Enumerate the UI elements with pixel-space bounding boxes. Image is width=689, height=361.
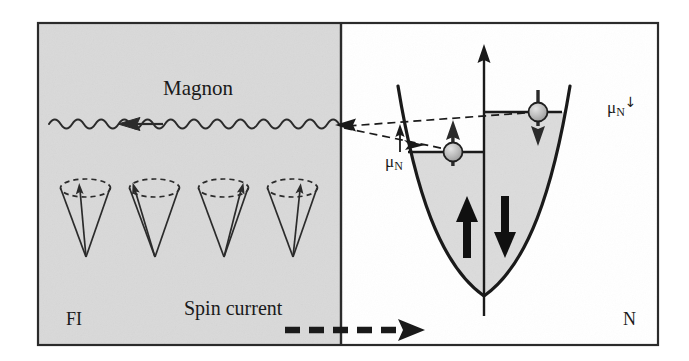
electron-spin-up-sphere <box>444 143 463 162</box>
mu-spin-down-label: μN↓ <box>607 95 637 118</box>
figure-root: Magnon Spin current FI N μN μN↓ <box>0 0 689 361</box>
majority-spin-arrow-shaft <box>463 216 471 258</box>
n-region-label: N <box>623 310 636 328</box>
mu-symbol: μ <box>385 152 394 171</box>
spin-pumping-diagram <box>0 0 689 361</box>
minority-spin-arrow-shaft <box>501 196 509 238</box>
electron-spin-down-sphere <box>529 103 548 122</box>
magnon-label: Magnon <box>163 78 233 99</box>
mu-symbol: μ <box>607 98 616 117</box>
mu-superscript-down-arrow: ↓ <box>625 94 637 110</box>
spin-current-label: Spin current <box>184 298 282 318</box>
mu-subscript: N <box>616 105 625 119</box>
mu-subscript: N <box>394 159 403 173</box>
fi-region-label: FI <box>66 310 82 328</box>
mu-spin-up-label: μN <box>385 153 403 172</box>
